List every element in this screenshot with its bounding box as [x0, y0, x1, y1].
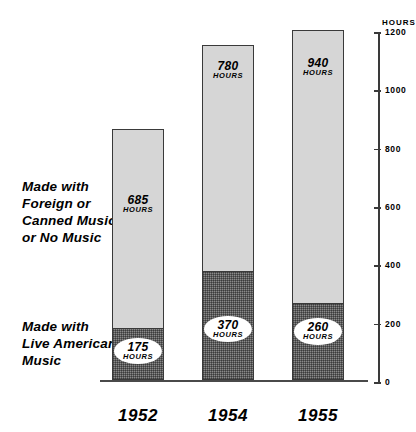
- bar-1952: 685 HOURS 175 HOURS: [112, 129, 164, 380]
- bar-1955-segment-foreign: 940 HOURS: [293, 31, 343, 305]
- bar-1955-bottom-unit: HOURS: [303, 333, 333, 341]
- y-tick-label-0: 0: [385, 377, 390, 387]
- x-axis-label-1952: 1952: [112, 406, 164, 426]
- plot-area: 685 HOURS 175 HOURS 780 HOURS 370: [100, 20, 368, 382]
- y-tick-600: [374, 207, 381, 209]
- y-tick-400: [374, 265, 381, 267]
- bar-1952-top-unit: HOURS: [123, 206, 153, 214]
- bar-1954-top-label: 780 HOURS: [213, 60, 243, 80]
- bar-1954-segment-foreign: 780 HOURS: [203, 46, 253, 274]
- bar-1955-top-unit: HOURS: [303, 69, 333, 77]
- y-tick-label-800: 800: [385, 144, 401, 154]
- y-tick-label-1000: 1000: [385, 85, 406, 95]
- bar-1955-bottom-label: 260 HOURS: [294, 318, 342, 344]
- bar-1954-segment-live: 370 HOURS: [203, 271, 253, 379]
- bar-1954: 780 HOURS 370 HOURS: [202, 45, 254, 380]
- y-tick-label-1200: 1200: [385, 27, 406, 37]
- bar-1952-top-label: 685 HOURS: [123, 194, 153, 214]
- y-tick-label-200: 200: [385, 319, 401, 329]
- bar-1954-bottom-label: 370 HOURS: [204, 316, 252, 342]
- y-tick-label-600: 600: [385, 202, 401, 212]
- bar-1955-segment-live: 260 HOURS: [293, 303, 343, 379]
- stacked-bar-chart: Made with Foreign or Canned Music or No …: [0, 0, 416, 432]
- y-tick-label-400: 400: [385, 260, 401, 270]
- bar-1952-bottom-unit: HOURS: [123, 353, 153, 361]
- y-tick-0: [374, 382, 381, 384]
- y-axis-title: HOURS: [382, 18, 416, 27]
- y-tick-1000: [374, 90, 381, 92]
- y-axis: HOURS 020040060080010001200: [378, 20, 416, 384]
- bar-1954-bottom-unit: HOURS: [213, 331, 243, 339]
- y-tick-1200: [374, 32, 381, 34]
- x-axis-label-1955: 1955: [292, 406, 344, 426]
- x-axis-baseline: [100, 380, 368, 382]
- bar-1952-bottom-label: 175 HOURS: [114, 338, 162, 364]
- bar-1955-top-label: 940 HOURS: [303, 57, 333, 77]
- bar-1952-segment-foreign: 685 HOURS: [113, 130, 163, 330]
- bar-1955: 940 HOURS 260 HOURS: [292, 30, 344, 380]
- x-axis-label-1954: 1954: [202, 406, 254, 426]
- y-tick-800: [374, 149, 381, 151]
- bar-1954-top-unit: HOURS: [213, 72, 243, 80]
- bar-1952-segment-live: 175 HOURS: [113, 328, 163, 379]
- y-tick-200: [374, 324, 381, 326]
